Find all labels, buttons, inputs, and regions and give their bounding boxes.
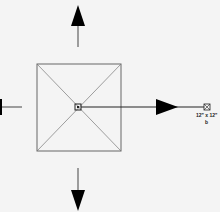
diagram-canvas: [0, 0, 220, 212]
end-element-marker-icon: [204, 104, 210, 110]
arrow-up-icon: [71, 5, 85, 47]
element-size-label: 12" x 12": [196, 112, 217, 118]
arrow-left-stub-icon: [0, 99, 22, 115]
arrow-right-icon: [81, 99, 204, 115]
element-sublabel: b: [205, 119, 208, 125]
arrow-down-icon: [71, 168, 85, 211]
